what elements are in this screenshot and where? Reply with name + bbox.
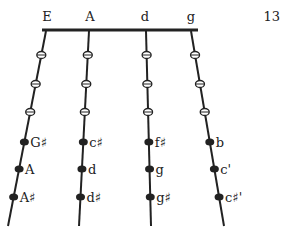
note-label: g <box>156 162 164 177</box>
open-position-marker <box>82 81 91 88</box>
open-position-marker <box>144 109 153 116</box>
finger-position-dot <box>144 139 153 146</box>
open-position-marker <box>83 52 92 59</box>
open-position-marker <box>142 52 151 59</box>
note-label: f♯ <box>155 135 166 150</box>
finger-position-dot <box>145 166 154 173</box>
open-position-marker <box>195 81 204 88</box>
finger-position-dot <box>20 139 29 146</box>
note-label: d <box>88 162 96 177</box>
open-position-marker <box>37 52 46 59</box>
string-label-a: A <box>84 9 95 24</box>
note-label: d♯ <box>86 190 101 205</box>
note-label: A <box>24 162 35 177</box>
note-label: c' <box>220 162 231 177</box>
string-label-d: d <box>141 9 149 24</box>
finger-position-dot <box>205 139 214 146</box>
finger-position-dot <box>210 166 219 173</box>
finger-position-dot <box>146 194 155 201</box>
open-position-marker <box>80 109 89 116</box>
open-position-marker <box>26 109 35 116</box>
open-position-marker <box>200 109 209 116</box>
finger-position-dot <box>79 139 88 146</box>
strings-layer: G♯AA♯c♯dd♯f♯gg♯bc'c♯' <box>8 31 242 226</box>
finger-position-dot <box>215 194 224 201</box>
note-label: c♯ <box>89 135 103 150</box>
note-label: c♯' <box>225 190 242 205</box>
fingerboard-diagram: G♯AA♯c♯dd♯f♯gg♯bc'c♯' E A d g 13 <box>0 0 283 233</box>
open-position-marker <box>143 81 152 88</box>
open-position-marker <box>191 52 200 59</box>
string-label-g: g <box>187 9 195 24</box>
note-label: G♯ <box>30 135 47 150</box>
open-position-marker <box>31 81 40 88</box>
finger-position-dot <box>9 194 18 201</box>
finger-position-dot <box>76 194 85 201</box>
string-label-e: E <box>42 9 52 24</box>
note-label: b <box>216 135 224 150</box>
finger-position-dot <box>77 166 86 173</box>
note-label: A♯ <box>19 190 36 205</box>
note-label: g♯ <box>156 190 171 205</box>
finger-position-dot <box>15 166 24 173</box>
page-number: 13 <box>263 9 280 24</box>
